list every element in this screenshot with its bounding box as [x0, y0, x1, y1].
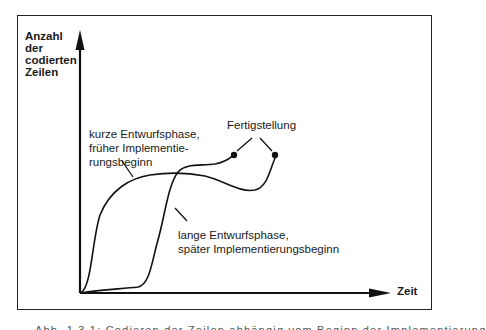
y-axis-label: Anzahl der codierten Zeilen — [25, 30, 80, 78]
curve-label-short-line-1: kurze Entwurfsphase, — [89, 127, 214, 141]
curve-label-long-line-1: lange Entwurfsphase, — [178, 228, 339, 242]
leader-line-long — [175, 208, 187, 221]
curve-label-short-design-phase: kurze Entwurfsphase, früher Implementie-… — [89, 127, 214, 169]
x-axis — [80, 289, 391, 298]
completion-label: Fertigstellung — [227, 119, 296, 132]
curve-long-design-phase — [81, 155, 234, 293]
figure-caption: Abb. 1.3.1: Codieren der Zeilen abhängig… — [35, 324, 486, 330]
curve-label-long-design-phase: lange Entwurfsphase, später Implementier… — [178, 228, 339, 256]
completion-dot-short — [272, 152, 278, 158]
x-axis-arrow-icon — [369, 289, 391, 298]
leader-line-completion-left — [237, 138, 252, 151]
curve-label-short-line-2: früher Implementie- — [89, 141, 214, 155]
x-axis-label: Zeit — [397, 285, 417, 298]
curve-label-long-line-2: später Implementierungsbeginn — [178, 242, 339, 256]
curve-label-short-line-3: rungsbeginn — [89, 155, 214, 169]
completion-dot-long — [231, 152, 237, 158]
curve-short-design-phase — [81, 156, 276, 293]
leader-line-completion-right — [260, 138, 272, 151]
